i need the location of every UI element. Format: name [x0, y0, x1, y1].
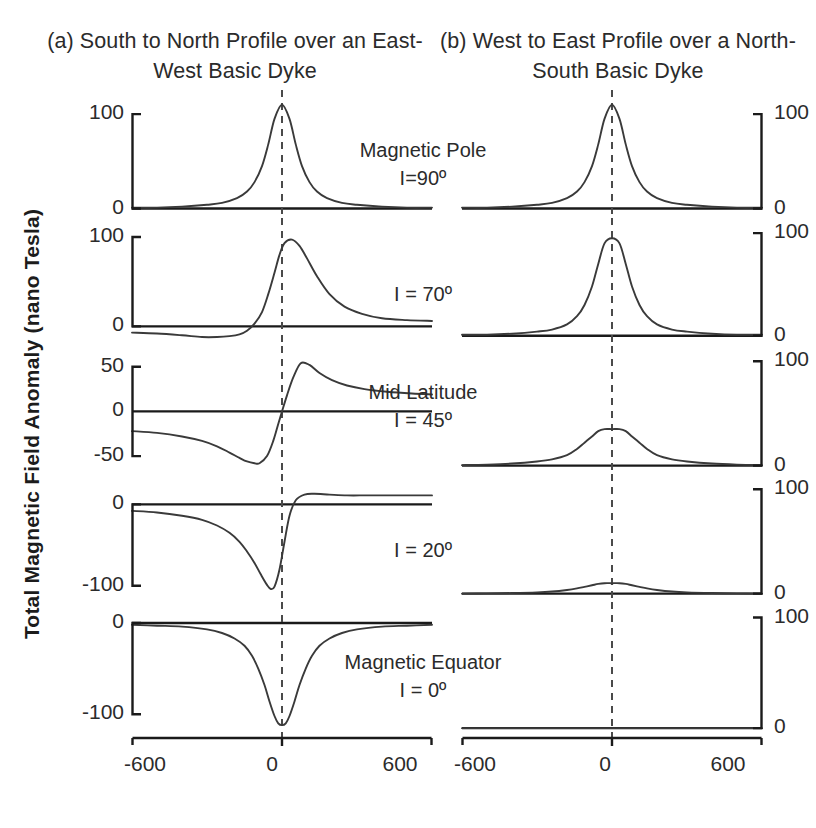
x-axis-right-column — [462, 737, 762, 753]
panel-annotation-row3: Mid LatitudeI = 45º — [318, 378, 528, 434]
y-tick-label: 100 — [36, 223, 124, 247]
y-tick-label: 0 — [774, 714, 816, 738]
y-tick-label: 100 — [774, 347, 816, 371]
y-tick-label: 100 — [36, 100, 124, 124]
annotation-line-2: I = 45º — [318, 406, 528, 434]
y-tick-label: 100 — [774, 475, 816, 499]
x-tick-right-min: -600 — [435, 752, 515, 776]
annotation-line-1: Magnetic Equator — [318, 648, 528, 676]
column-title-b: (b) West to East Profile over a North-So… — [438, 26, 798, 86]
y-axis-bracket — [753, 114, 762, 208]
y-axis-bracket — [133, 623, 142, 714]
y-tick-label: 0 — [36, 195, 124, 219]
y-axis-bracket — [753, 361, 762, 465]
panel-annotation-row4: I = 20º — [318, 536, 528, 564]
y-tick-label: 0 — [36, 609, 124, 633]
y-tick-label: 0 — [36, 312, 124, 336]
panel-annotation-row5: Magnetic EquatorI = 0º — [318, 648, 528, 704]
y-axis-bracket — [133, 504, 142, 585]
y-axis-bracket — [753, 489, 762, 593]
y-tick-label: -100 — [36, 572, 124, 596]
y-axis-bracket — [133, 237, 142, 326]
annotation-line-1: Mid Latitude — [318, 378, 528, 406]
y-tick-label: -50 — [36, 442, 124, 466]
y-axis-bracket — [753, 618, 762, 729]
y-tick-label: 100 — [774, 100, 816, 124]
anomaly-curve — [462, 429, 762, 465]
x-axis-rule — [463, 738, 762, 746]
x-tick-left-max: 600 — [365, 752, 435, 776]
x-tick-right-max: 600 — [693, 752, 763, 776]
y-tick-label: 0 — [774, 580, 816, 604]
column-title-a: (a) South to North Profile over an East-… — [40, 26, 430, 86]
annotation-line-1: Magnetic Pole — [318, 136, 528, 164]
annotation-line-2: I = 20º — [318, 536, 528, 564]
x-tick-left-min: -600 — [105, 752, 185, 776]
x-tick-right-zero: 0 — [585, 752, 625, 776]
y-tick-label: 0 — [774, 452, 816, 476]
y-tick-label: -100 — [36, 700, 124, 724]
annotation-line-2: I = 0º — [318, 676, 528, 704]
y-tick-label: 50 — [36, 353, 124, 377]
y-tick-label: 0 — [36, 490, 124, 514]
annotation-line-2: I=90º — [318, 164, 528, 192]
panel-annotation-row2: I = 70º — [318, 280, 528, 308]
x-tick-left-zero: 0 — [252, 752, 292, 776]
y-axis-bracket — [753, 233, 762, 336]
x-axis-left-column — [132, 737, 432, 753]
y-tick-label: 100 — [774, 219, 816, 243]
annotation-line-2: I = 70º — [318, 280, 528, 308]
x-axis-rule — [133, 738, 432, 746]
y-tick-label: 0 — [36, 397, 124, 421]
y-tick-label: 0 — [774, 195, 816, 219]
y-axis-bracket — [133, 114, 142, 208]
panel-annotation-row1: Magnetic PoleI=90º — [318, 136, 528, 192]
figure-magnetic-anomaly-profiles: (a) South to North Profile over an East-… — [0, 0, 816, 828]
y-tick-label: 0 — [774, 322, 816, 346]
y-tick-label: 100 — [774, 604, 816, 628]
